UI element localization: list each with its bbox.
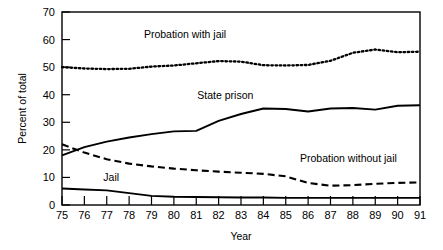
y-axis-tick-label: 40	[43, 89, 55, 101]
x-axis-tick-label: 91	[414, 209, 426, 221]
x-axis-tick-label: 88	[347, 209, 359, 221]
y-axis-title: Percent of total	[16, 73, 28, 144]
x-axis-tick-label: 78	[123, 209, 135, 221]
series-line-state-prison	[62, 105, 420, 155]
y-axis-tick-label: 10	[43, 171, 55, 183]
x-axis-tick-label: 77	[101, 209, 113, 221]
x-axis-tick-label: 75	[56, 209, 68, 221]
line-chart: 0102030405060707576777879808182838485868…	[0, 0, 443, 250]
chart-container: 0102030405060707576777879808182838485868…	[0, 0, 443, 250]
x-axis-tick-label: 82	[213, 209, 225, 221]
series-line-probation-with-jail	[62, 50, 420, 70]
y-axis-tick-label: 0	[49, 199, 55, 211]
y-axis-tick-label: 50	[43, 61, 55, 73]
x-axis-tick-label: 76	[78, 209, 90, 221]
x-axis-tick-label: 85	[280, 209, 292, 221]
y-axis-tick-label: 60	[43, 34, 55, 46]
series-label-probation-with-jail: Probation with jail	[144, 28, 226, 40]
series-label-state-prison: State prison	[197, 89, 253, 101]
y-axis-tick-label: 70	[43, 6, 55, 18]
series-label-probation-without-jail: Probation without jail	[300, 152, 397, 164]
x-axis-tick-label: 84	[257, 209, 269, 221]
x-axis-tick-label: 89	[369, 209, 381, 221]
x-axis-tick-label: 80	[168, 209, 180, 221]
x-axis-tick-label: 83	[235, 209, 247, 221]
x-axis-tick-label: 90	[392, 209, 404, 221]
x-axis-tick-label: 81	[190, 209, 202, 221]
x-axis-tick-label: 87	[324, 209, 336, 221]
y-axis-tick-label: 20	[43, 144, 55, 156]
x-axis-title: Year	[230, 230, 252, 242]
y-axis-tick-label: 30	[43, 116, 55, 128]
series-label-jail: Jail	[103, 171, 119, 183]
x-axis-tick-label: 86	[302, 209, 314, 221]
x-axis-tick-label: 79	[145, 209, 157, 221]
